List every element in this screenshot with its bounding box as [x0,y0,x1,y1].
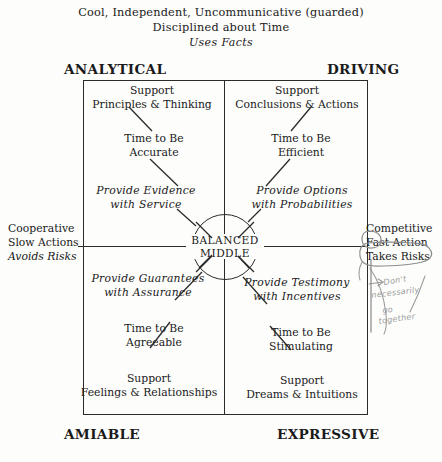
driving-time-line-1: Time to Be [250,132,352,146]
amiable-time-line-1: Time to Be [100,322,208,336]
amiable-support-line-1: Support [78,372,220,386]
handwritten-note-line-1: Don't [383,274,407,286]
analytical-support-line-2: Principles & Thinking [88,98,216,112]
axis-label-left-cooperative: Cooperative Slow Actions Avoids Risks [8,222,79,264]
social-styles-matrix-figure: Cool, Independent, Uncommunicative (guar… [0,0,442,462]
driving-provide-text: Provide Options with Probabilities [236,184,368,212]
expressive-support-text: Support Dreams & Intuitions [232,374,372,402]
analytical-provide-text: Provide Evidence with Service [86,184,206,212]
header-line-3: Uses Facts [0,36,442,51]
amiable-support-text: Support Feelings & Relationships [78,372,220,400]
analytical-support-text: Support Principles & Thinking [88,84,216,112]
handwritten-arrow-head-bottom [378,282,383,286]
expressive-support-line-1: Support [232,374,372,388]
quadrant-label-driving: DRIVING [327,61,400,77]
driving-support-text: Support Conclusions & Actions [228,84,366,112]
quadrant-label-analytical: ANALYTICAL [64,61,166,77]
amiable-provide-line-1: Provide Guarantees [84,272,212,286]
axis-right-line-3: Takes Risks [366,250,432,264]
driving-support-line-2: Conclusions & Actions [228,98,366,112]
handwritten-note-line-2: necessarily [371,285,420,300]
expressive-support-line-2: Dreams & Intuitions [232,388,372,402]
axis-right-line-2: Fast Action [366,236,432,250]
analytical-support-line-1: Support [88,84,216,98]
axis-left-line-1: Cooperative [8,222,79,236]
amiable-time-line-2: Agreeable [100,336,208,350]
driving-time-text: Time to Be Efficient [250,132,352,160]
figure-header: Cool, Independent, Uncommunicative (guar… [0,6,442,50]
driving-time-line-2: Efficient [250,146,352,160]
axis-right-line-1: Competitive [366,222,432,236]
expressive-provide-line-2: with Incentives [232,290,362,304]
amiable-support-line-2: Feelings & Relationships [78,386,220,400]
balanced-middle-label: BALANCED MIDDLE [186,234,264,259]
header-line-1: Cool, Independent, Uncommunicative (guar… [0,6,442,21]
expressive-provide-line-1: Provide Testimony [232,276,362,290]
driving-support-line-1: Support [228,84,366,98]
axis-left-line-2: Slow Actions [8,236,79,250]
expressive-time-line-2: Stimulating [246,340,356,354]
amiable-provide-text: Provide Guarantees with Assurance [84,272,212,300]
expressive-time-line-1: Time to Be [246,326,356,340]
quadrant-label-expressive: EXPRESSIVE [277,426,379,442]
driving-provide-line-2: with Probabilities [236,198,368,212]
handwritten-arrow-shaft [369,282,383,284]
analytical-time-text: Time to Be Accurate [100,132,208,160]
analytical-time-line-1: Time to Be [100,132,208,146]
driving-provide-line-1: Provide Options [236,184,368,198]
expressive-time-text: Time to Be Stimulating [246,326,356,354]
expressive-provide-text: Provide Testimony with Incentives [232,276,362,304]
balanced-middle-line-2: MIDDLE [186,247,264,260]
axis-left-line-3: Avoids Risks [8,250,79,264]
axis-label-right-competitive: Competitive Fast Action Takes Risks [366,222,432,264]
header-line-2: Disciplined about Time [0,21,442,36]
balanced-middle-line-1: BALANCED [186,234,264,247]
quadrant-label-amiable: AMIABLE [64,426,140,442]
analytical-provide-line-2: with Service [86,198,206,212]
analytical-provide-line-1: Provide Evidence [86,184,206,198]
amiable-time-text: Time to Be Agreeable [100,322,208,350]
amiable-provide-line-2: with Assurance [84,286,212,300]
handwritten-note-line-3: go [382,305,393,315]
analytical-time-line-2: Accurate [100,146,208,160]
